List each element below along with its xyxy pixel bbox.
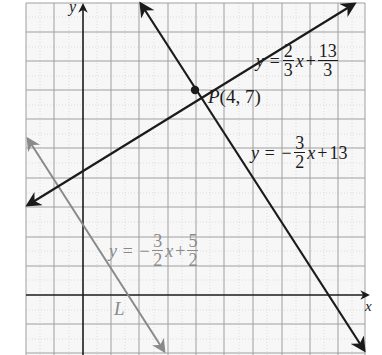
line-l-name: L bbox=[114, 299, 125, 318]
eq-b-coef: 3 2 bbox=[294, 134, 305, 171]
eq-l-const: 5 2 bbox=[187, 232, 198, 269]
eq-b-prefix: y = − bbox=[251, 144, 292, 162]
equation-line-b: y = − 3 2 x + 13 bbox=[250, 134, 348, 171]
eq-a-coef: 2 3 bbox=[283, 42, 294, 79]
equation-line-l: y = − 3 2 x + 5 2 bbox=[108, 232, 199, 269]
equation-line-a: y = 2 3 x + 13 3 bbox=[255, 42, 339, 79]
eq-l-var: x bbox=[165, 242, 173, 260]
y-axis-label: y bbox=[69, 0, 76, 15]
eq-a-op: + bbox=[306, 52, 316, 70]
eq-l-op: + bbox=[175, 242, 185, 260]
eq-b-var: x bbox=[307, 144, 315, 162]
eq-l-prefix: y = − bbox=[109, 242, 150, 260]
eq-l-coef: 3 2 bbox=[152, 232, 163, 269]
eq-a-const: 13 3 bbox=[318, 42, 338, 79]
point-p-label: P(4, 7) bbox=[208, 87, 261, 106]
eq-b-const: 13 bbox=[329, 144, 347, 162]
x-axis-label: x bbox=[365, 299, 372, 314]
eq-a-prefix: y = bbox=[256, 52, 281, 70]
eq-b-op: + bbox=[317, 144, 327, 162]
point-p bbox=[191, 86, 199, 94]
eq-a-var: x bbox=[296, 52, 304, 70]
